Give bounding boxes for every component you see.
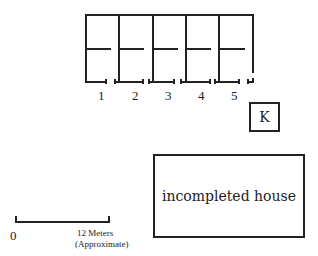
scale-start-label: 0: [10, 228, 17, 244]
unit-4-label: 4: [198, 88, 205, 104]
scale-note: (Approximate): [75, 239, 128, 249]
unit-1-label: 1: [98, 88, 105, 104]
unit-5-label: 5: [231, 88, 238, 104]
kitchen-box: K: [249, 102, 280, 132]
unit-3-label: 3: [165, 88, 172, 104]
unit-2-label: 2: [132, 88, 139, 104]
house-label: incompleted house: [162, 188, 296, 204]
incompleted-house-box: incompleted house: [153, 154, 305, 238]
kitchen-label: K: [259, 109, 269, 125]
scale-end-label: 12 Meters: [77, 228, 113, 238]
